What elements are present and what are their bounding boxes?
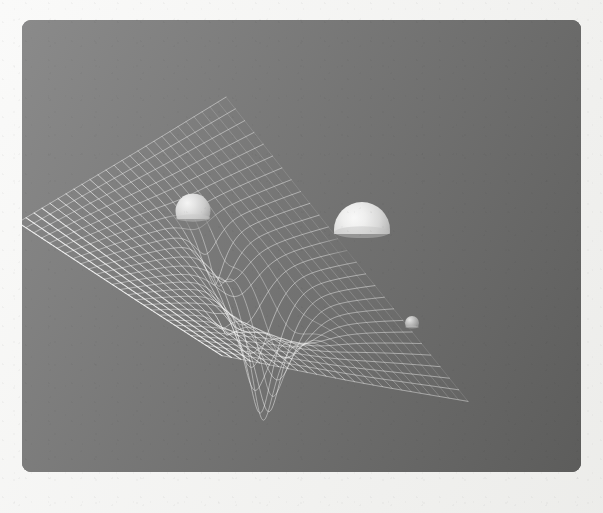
scene-panel xyxy=(22,20,581,472)
vignette-overlay xyxy=(22,20,581,472)
photo-frame xyxy=(0,0,603,513)
spacetime-curvature-figure xyxy=(22,20,581,472)
